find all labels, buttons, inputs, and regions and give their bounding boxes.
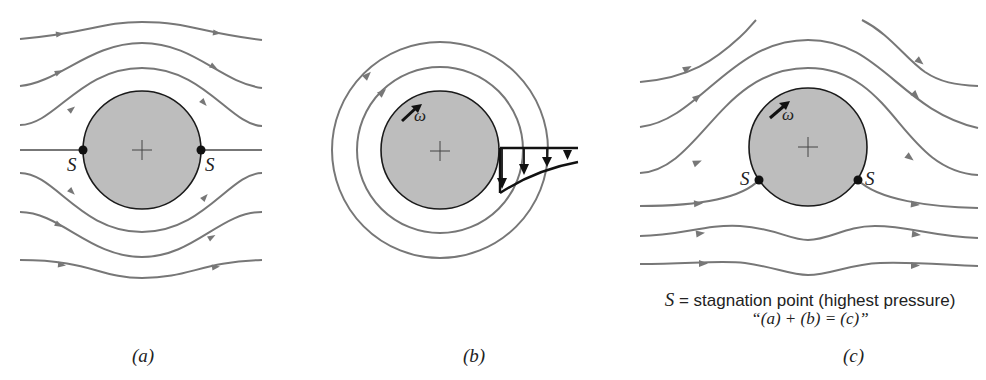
panel-c-diagram bbox=[640, 20, 978, 275]
superposition-equation: “(a) + (b) = (c)” bbox=[635, 309, 985, 329]
omega-label-c: ω bbox=[782, 105, 794, 125]
stagnation-label-c-left: S bbox=[740, 168, 750, 190]
stagnation-point-c-right bbox=[854, 176, 863, 185]
stagnation-point-c-left bbox=[755, 176, 764, 185]
ring-arrows-b bbox=[362, 69, 388, 97]
panel-b-diagram bbox=[332, 42, 578, 258]
legend-definition: = stagnation point (highest pressure) bbox=[674, 291, 955, 310]
panel-b-caption: (b) bbox=[463, 345, 485, 367]
omega-label-b: ω bbox=[414, 106, 426, 126]
panel-a-diagram bbox=[20, 22, 262, 278]
panel-a-caption: (a) bbox=[132, 345, 154, 367]
panel-c-caption: (c) bbox=[843, 345, 864, 367]
stagnation-point-a-left bbox=[79, 146, 88, 155]
legend-symbol: S bbox=[665, 289, 675, 310]
stagnation-label-a-left: S bbox=[67, 154, 77, 176]
stagnation-label-c-right: S bbox=[865, 168, 875, 190]
stagnation-legend: S = stagnation point (highest pressure) bbox=[635, 289, 985, 311]
velocity-profile-b bbox=[497, 148, 578, 193]
stagnation-label-a-right: S bbox=[205, 154, 215, 176]
